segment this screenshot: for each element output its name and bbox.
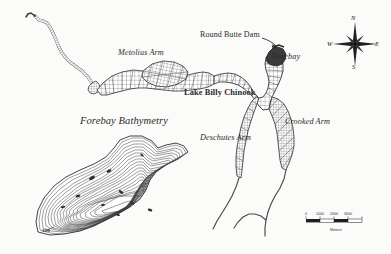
label-round-butte-dam: Round Butte Dam xyxy=(200,30,260,39)
label-crooked-arm: Crooked Arm xyxy=(285,117,330,126)
scale-tick-2: 2000 xyxy=(330,212,338,216)
label-contour-depth: 100 xyxy=(42,228,50,233)
label-deschutes-arm: Deschutes Arm xyxy=(200,133,251,142)
label-forebay: Forebay xyxy=(272,52,300,61)
map-canvas: Metolius Arm Round Butte Dam Forebay Lak… xyxy=(0,0,391,254)
compass-label-east: E xyxy=(375,40,379,47)
scale-tick-1: 1000 xyxy=(316,212,324,216)
label-lake-billy-chinook: Lake Billy Chinook xyxy=(184,88,256,97)
scale-unit-label: Meters xyxy=(330,228,342,232)
label-metolius-arm: Metolius Arm xyxy=(118,48,164,57)
compass-label-west: W xyxy=(327,40,332,47)
inset-title-forebay-bathymetry: Forebay Bathymetry xyxy=(80,115,168,126)
scale-tick-0: 0 xyxy=(305,212,307,216)
compass-label-south: S xyxy=(352,63,355,70)
scale-tick-3: 3000 xyxy=(344,212,352,216)
compass-label-north: N xyxy=(351,14,355,21)
